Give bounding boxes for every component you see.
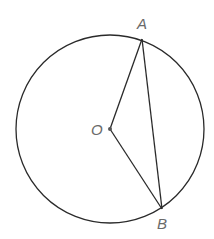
point-label-b: B [157,215,167,232]
center-point [108,127,112,131]
point-label-a: A [136,15,147,32]
segment-oa [110,39,142,129]
point-label-o: O [91,121,103,138]
circle-diagram: A O B [0,0,214,239]
